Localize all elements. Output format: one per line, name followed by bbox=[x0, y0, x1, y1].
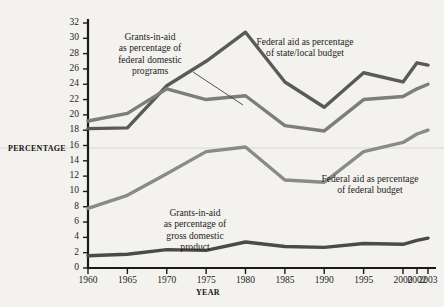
x-tick-label: 1980 bbox=[229, 276, 263, 286]
y-tick-label: 10 bbox=[57, 186, 79, 196]
x-tick-label: 1995 bbox=[347, 276, 381, 286]
x-tick-label: 1965 bbox=[110, 276, 144, 286]
y-tick-label: 26 bbox=[57, 64, 79, 74]
y-tick-label: 4 bbox=[57, 232, 79, 242]
y-tick-label: 18 bbox=[57, 125, 79, 135]
y-tick-label: 2 bbox=[57, 248, 79, 258]
y-axis-title: PERCENTAGE bbox=[8, 144, 66, 153]
y-tick-label: 14 bbox=[57, 156, 79, 166]
x-tick-label: 1985 bbox=[268, 276, 302, 286]
annotation-state-local-budget: Federal aid as percentage of state/local… bbox=[235, 36, 375, 59]
annotation-federal-budget: Federal aid as percentage of federal bud… bbox=[305, 173, 435, 196]
x-axis-title: YEAR bbox=[196, 288, 220, 297]
x-tick-label: 1975 bbox=[189, 276, 223, 286]
series-line-1 bbox=[88, 84, 428, 131]
series-line-2 bbox=[88, 130, 428, 208]
x-tick-label: 1960 bbox=[71, 276, 105, 286]
y-tick-label: 22 bbox=[57, 95, 79, 105]
y-tick-label: 32 bbox=[57, 18, 79, 28]
y-tick-label: 28 bbox=[57, 49, 79, 59]
y-tick-label: 30 bbox=[57, 33, 79, 43]
chart-plot-area bbox=[0, 0, 444, 307]
y-tick-label: 8 bbox=[57, 202, 79, 212]
annotation-gross-domestic-product: Grants-in-aid as percentage of gross dom… bbox=[140, 207, 250, 253]
y-tick-label: 24 bbox=[57, 79, 79, 89]
y-tick-label: 6 bbox=[57, 217, 79, 227]
y-tick-label: 20 bbox=[57, 110, 79, 120]
x-tick-label: 2003 bbox=[411, 276, 444, 286]
x-tick-label: 1990 bbox=[307, 276, 341, 286]
y-tick-label: 12 bbox=[57, 171, 79, 181]
annotation-federal-domestic-programs: Grants-in-aid as percentage of federal d… bbox=[100, 31, 200, 77]
series-line-3 bbox=[88, 238, 428, 256]
x-tick-label: 1970 bbox=[150, 276, 184, 286]
y-tick-label: 0 bbox=[57, 263, 79, 273]
chart-figure: 0246810121416182022242628303219601965197… bbox=[0, 0, 444, 307]
